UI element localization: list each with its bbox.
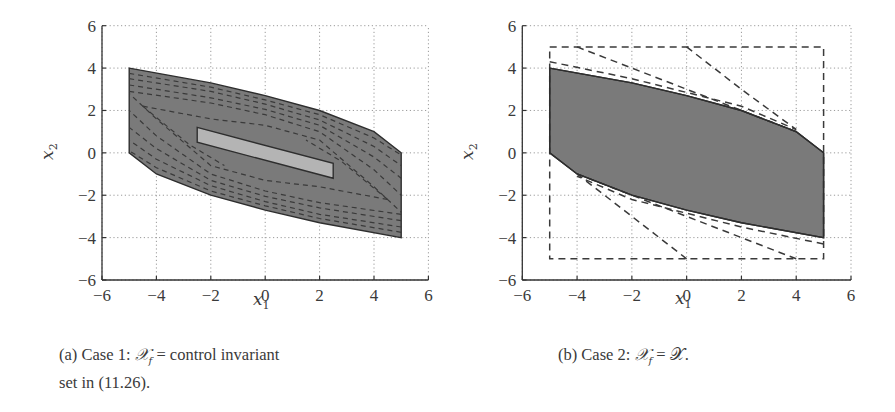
- svg-text:0: 0: [88, 144, 97, 163]
- plot-a: −6−4−20246−6−4−20246: [78, 17, 433, 305]
- xlabel-a: x1: [253, 288, 270, 312]
- svg-text:4: 4: [370, 286, 379, 305]
- svg-text:−2: −2: [202, 286, 220, 305]
- svg-text:−4: −4: [568, 286, 587, 305]
- svg-text:6: 6: [424, 286, 433, 305]
- svg-text:2: 2: [737, 286, 746, 305]
- svg-text:4: 4: [508, 59, 517, 78]
- svg-text:2: 2: [88, 101, 97, 120]
- svg-text:6: 6: [508, 17, 517, 36]
- caption-a: (a) Case 1: 𝒳f = control invariant set i…: [59, 344, 419, 394]
- ylabel-b: x2: [457, 143, 480, 160]
- svg-text:−4: −4: [498, 229, 517, 248]
- caption-b: (b) Case 2: 𝒳f = 𝒳.: [558, 344, 888, 372]
- svg-text:6: 6: [847, 286, 856, 305]
- svg-text:−4: −4: [147, 286, 166, 305]
- svg-text:−2: −2: [78, 186, 96, 205]
- svg-text:0: 0: [508, 144, 517, 163]
- svg-text:6: 6: [88, 17, 97, 36]
- ylabel-a: x2: [37, 143, 60, 160]
- svg-text:−2: −2: [498, 186, 516, 205]
- svg-text:4: 4: [792, 286, 801, 305]
- svg-text:2: 2: [315, 286, 324, 305]
- svg-text:2: 2: [508, 101, 517, 120]
- plot-b: −6−4−20246−6−4−20246: [498, 17, 855, 305]
- svg-text:−4: −4: [78, 229, 97, 248]
- svg-text:−6: −6: [78, 271, 96, 290]
- xlabel-b: x1: [675, 288, 692, 311]
- svg-text:−2: −2: [623, 286, 641, 305]
- svg-text:4: 4: [88, 59, 97, 78]
- svg-text:−6: −6: [498, 271, 516, 290]
